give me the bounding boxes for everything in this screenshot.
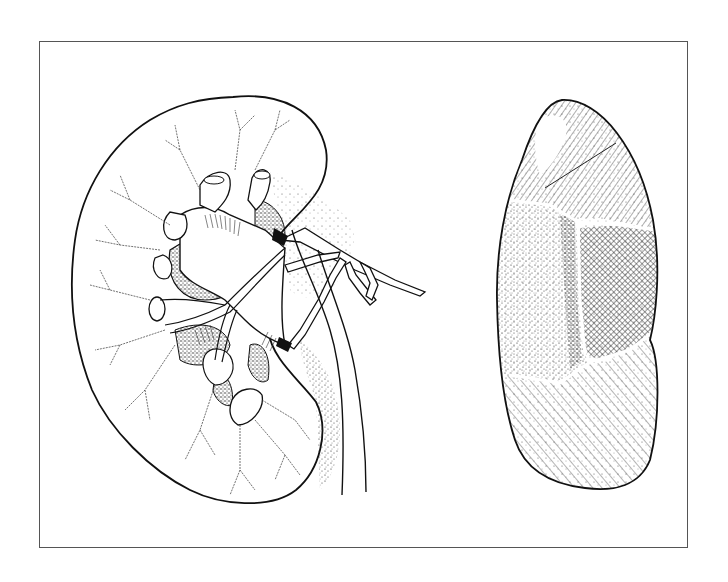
calyx-cut [149, 297, 165, 321]
kidney-illustration [0, 0, 728, 582]
left-kidney-section [72, 96, 425, 503]
calyx-middle [164, 212, 187, 240]
right-kidney-zones [490, 90, 680, 500]
